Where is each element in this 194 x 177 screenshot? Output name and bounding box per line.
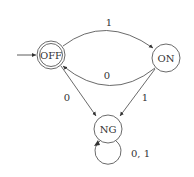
edge-on-to-ng-label: 1	[142, 92, 148, 103]
state-off: OFF	[37, 41, 65, 69]
self-loop-arrowhead	[94, 140, 100, 146]
state-on-label: ON	[158, 53, 175, 64]
edge-off-to-on	[63, 30, 153, 48]
state-on: ON	[152, 44, 180, 72]
state-ng-label: NG	[100, 124, 117, 135]
edge-on-to-off-label: 0	[104, 70, 110, 81]
state-diagram: OFF ON NG 1 0 0 1 0, 1	[0, 0, 194, 177]
state-ng: NG	[94, 115, 122, 143]
edge-off-to-ng	[61, 66, 96, 116]
edge-ng-loop-label: 0, 1	[131, 148, 150, 159]
edge-on-to-ng	[120, 69, 155, 116]
edge-off-to-ng-label: 0	[64, 92, 70, 103]
state-off-label: OFF	[40, 50, 62, 61]
edge-off-to-on-label: 1	[106, 17, 112, 28]
